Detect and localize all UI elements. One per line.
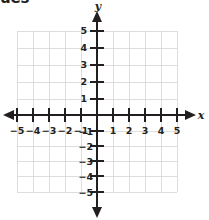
y-tick-label: −1 <box>78 126 93 137</box>
x-tick-label: 2 <box>126 125 133 136</box>
coordinate-grid-figure: ues <box>0 0 209 220</box>
y-tick-label: 4 <box>80 42 87 53</box>
y-axis-arrow-down <box>92 207 102 218</box>
x-tick-label: −5 <box>10 125 25 136</box>
y-tick-label: 5 <box>80 25 87 36</box>
x-tick-label: 5 <box>174 125 181 136</box>
y-tick-label: −5 <box>78 187 93 198</box>
y-tick-label: 1 <box>80 93 87 104</box>
y-axis-label: y <box>94 0 103 13</box>
x-tick-label: 1 <box>110 125 117 136</box>
y-tick-label: 2 <box>80 76 87 87</box>
y-tick-label: −2 <box>78 141 93 152</box>
cartesian-plane: −5 −4 −3 −2 −1 1 2 3 4 5 5 4 3 2 1 −1 −2… <box>0 0 209 220</box>
x-tick-label: −3 <box>42 125 57 136</box>
x-tick-label: −2 <box>58 125 73 136</box>
axes-group <box>9 18 189 211</box>
x-axis-label: x <box>197 109 205 122</box>
y-tick-label: −4 <box>78 171 93 182</box>
y-tick-label: 3 <box>80 59 87 70</box>
x-axis-arrow-right <box>185 110 196 120</box>
x-axis-arrow-left <box>3 110 14 120</box>
x-tick-label: 4 <box>158 125 165 136</box>
x-tick-label: −4 <box>26 125 41 136</box>
y-tick-label: −3 <box>78 156 93 167</box>
x-tick-label: 3 <box>142 125 149 136</box>
